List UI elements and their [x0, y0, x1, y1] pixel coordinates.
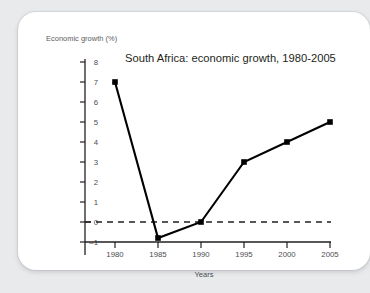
x-axis-title: Years	[194, 270, 213, 279]
x-tick-label: 1980	[106, 250, 123, 259]
data-point-marker	[155, 235, 161, 241]
x-tick-label: 1985	[149, 250, 166, 259]
x-tick-label: 1995	[235, 250, 252, 259]
data-point-marker	[241, 159, 247, 165]
figure-card: Economic growth (%) South Africa: econom…	[18, 12, 370, 270]
x-tick-label: 2005	[321, 250, 338, 259]
x-tick-marks	[115, 242, 330, 248]
x-tick-label: 2000	[278, 250, 295, 259]
y-tick-marks	[80, 62, 85, 242]
data-point-marker	[198, 219, 204, 225]
data-point-marker	[112, 79, 118, 85]
data-point-marker	[327, 119, 333, 125]
plot-svg	[18, 12, 370, 270]
economic-growth-line-chart: Economic growth (%) South Africa: econom…	[18, 12, 370, 270]
x-tick-label: 1990	[192, 250, 209, 259]
data-point-markers	[112, 79, 333, 241]
data-line	[115, 82, 330, 238]
data-point-marker	[284, 139, 290, 145]
